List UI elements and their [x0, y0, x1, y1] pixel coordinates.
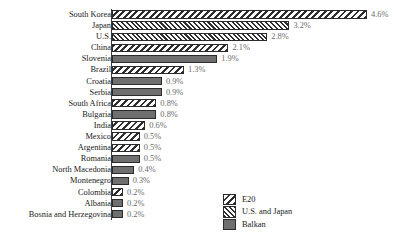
- bar-container: [112, 77, 162, 85]
- bar-row: Argentina0.5%: [0, 142, 408, 153]
- legend-label: U.S. and Japan: [242, 207, 292, 216]
- category-label: Montenegro: [0, 175, 111, 186]
- category-label: Colombia: [0, 187, 111, 198]
- legend-swatch-balkan: [223, 219, 236, 230]
- bar-row: Albania0.2%: [0, 198, 408, 209]
- bar-value-label: 0.3%: [133, 175, 150, 186]
- bar-value-label: 0.4%: [138, 164, 155, 175]
- bar-balkan: [112, 210, 123, 218]
- bar-row: Serbia0.9%: [0, 87, 408, 98]
- bar-value-label: 0.5%: [144, 131, 161, 142]
- bar-balkan: [112, 155, 140, 163]
- category-label: Albania: [0, 198, 111, 209]
- plot-area: South Korea4.6%Japan3.2%U.S.2.8%China2.1…: [0, 9, 408, 220]
- bar-e20: [112, 99, 156, 107]
- category-label: South Africa: [0, 98, 111, 109]
- bar-container: [112, 88, 162, 96]
- bar-value-label: 0.8%: [160, 98, 177, 109]
- bar-row: Colombia0.2%: [0, 187, 408, 198]
- bar-value-label: 1.3%: [188, 64, 205, 75]
- category-label: Bulgaria: [0, 109, 111, 120]
- category-label: Japan: [0, 20, 111, 31]
- bar-balkan: [112, 55, 217, 63]
- bar-container: [112, 121, 145, 129]
- bar-container: [112, 155, 140, 163]
- category-label: North Macedonia: [0, 164, 111, 175]
- bar-e20: [112, 132, 140, 140]
- bar-balkan: [112, 166, 134, 174]
- category-label: Bosnia and Herzegovina: [0, 209, 111, 220]
- category-label: Romania: [0, 153, 111, 164]
- bar-container: [112, 199, 123, 207]
- bar-value-label: 4.6%: [371, 9, 388, 20]
- category-label: China: [0, 42, 111, 53]
- bar-value-label: 0.5%: [144, 153, 161, 164]
- legend-label: Balkan: [242, 220, 266, 229]
- bar-row: Bosnia and Herzegovina0.2%: [0, 209, 408, 220]
- category-label: Serbia: [0, 87, 111, 98]
- bar-balkan: [112, 177, 129, 185]
- legend-swatch-e20: [223, 194, 236, 205]
- bar-row: Croatia0.9%: [0, 76, 408, 87]
- bar-value-label: 1.9%: [221, 53, 238, 64]
- bar-container: [112, 110, 156, 118]
- bar-e20: [112, 121, 145, 129]
- bar-container: [112, 10, 367, 18]
- bar-balkan: [112, 88, 162, 96]
- category-label: Mexico: [0, 131, 111, 142]
- bar-container: [112, 99, 156, 107]
- bar-container: [112, 132, 140, 140]
- bar-container: [112, 177, 129, 185]
- bar-container: [112, 44, 228, 52]
- legend-item: Balkan: [223, 218, 292, 231]
- chart-legend: E20U.S. and JapanBalkan: [223, 193, 292, 231]
- bar-row: North Macedonia0.4%: [0, 164, 408, 175]
- bar-e20: [112, 188, 123, 196]
- bar-u-s-and-japan: [112, 33, 267, 41]
- category-label: Slovenia: [0, 53, 111, 64]
- bar-row: Montenegro0.3%: [0, 175, 408, 186]
- bar-row: Brazil1.3%: [0, 64, 408, 75]
- bar-value-label: 0.2%: [127, 209, 144, 220]
- bar-row: South Korea4.6%: [0, 9, 408, 20]
- bar-container: [112, 55, 217, 63]
- legend-item: E20: [223, 193, 292, 206]
- bar-balkan: [112, 110, 156, 118]
- category-label: Argentina: [0, 142, 111, 153]
- bar-value-label: 0.8%: [160, 109, 177, 120]
- bar-value-label: 0.6%: [149, 120, 166, 131]
- bar-container: [112, 188, 123, 196]
- bar-value-label: 0.2%: [127, 187, 144, 198]
- bar-value-label: 2.8%: [271, 31, 288, 42]
- bar-e20: [112, 10, 367, 18]
- bar-row: Mexico0.5%: [0, 131, 408, 142]
- bar-e20: [112, 66, 184, 74]
- bar-value-label: 3.2%: [293, 20, 310, 31]
- bar-container: [112, 33, 267, 41]
- bar-container: [112, 144, 140, 152]
- bar-value-label: 0.2%: [127, 198, 144, 209]
- bar-value-label: 0.9%: [166, 76, 183, 87]
- bar-balkan: [112, 77, 162, 85]
- bar-container: [112, 21, 289, 29]
- bar-row: South Africa0.8%: [0, 98, 408, 109]
- bar-u-s-and-japan: [112, 21, 289, 29]
- bar-row: India0.6%: [0, 120, 408, 131]
- bar-row: Slovenia1.9%: [0, 53, 408, 64]
- legend-label: E20: [242, 195, 256, 204]
- category-label: India: [0, 120, 111, 131]
- bar-container: [112, 66, 184, 74]
- bar-row: Japan3.2%: [0, 20, 408, 31]
- bar-container: [112, 210, 123, 218]
- legend-item: U.S. and Japan: [223, 206, 292, 219]
- category-label: South Korea: [0, 9, 111, 20]
- category-label: U.S.: [0, 31, 111, 42]
- bar-value-label: 0.5%: [144, 142, 161, 153]
- bar-e20: [112, 144, 140, 152]
- bar-value-label: 0.9%: [166, 87, 183, 98]
- category-label: Brazil: [0, 64, 111, 75]
- bar-row: U.S.2.8%: [0, 31, 408, 42]
- bar-value-label: 2.1%: [232, 42, 249, 53]
- bar-e20: [112, 44, 228, 52]
- bar-row: Romania0.5%: [0, 153, 408, 164]
